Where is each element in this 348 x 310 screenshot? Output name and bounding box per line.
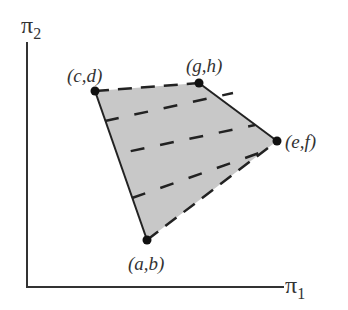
x-axis-subscript: 1 <box>297 285 305 302</box>
label-ef: (e,f) <box>285 131 316 153</box>
payoff-diagram: (a,b) (c,d) (g,h) (e,f) π2 π1 <box>0 0 348 310</box>
y-axis-subscript: 2 <box>33 25 41 42</box>
point-gh <box>195 79 204 88</box>
y-axis-symbol: π <box>21 12 33 38</box>
y-axis-label: π2 <box>21 12 41 42</box>
feasible-region <box>95 83 277 240</box>
label-ab: (a,b) <box>128 253 164 275</box>
x-axis-symbol: π <box>285 272 297 298</box>
x-axis-label: π1 <box>285 272 305 302</box>
label-cd: (c,d) <box>67 65 102 87</box>
point-ab <box>143 236 152 245</box>
point-cd <box>91 87 100 96</box>
label-gh: (g,h) <box>186 55 222 77</box>
point-ef <box>273 137 282 146</box>
